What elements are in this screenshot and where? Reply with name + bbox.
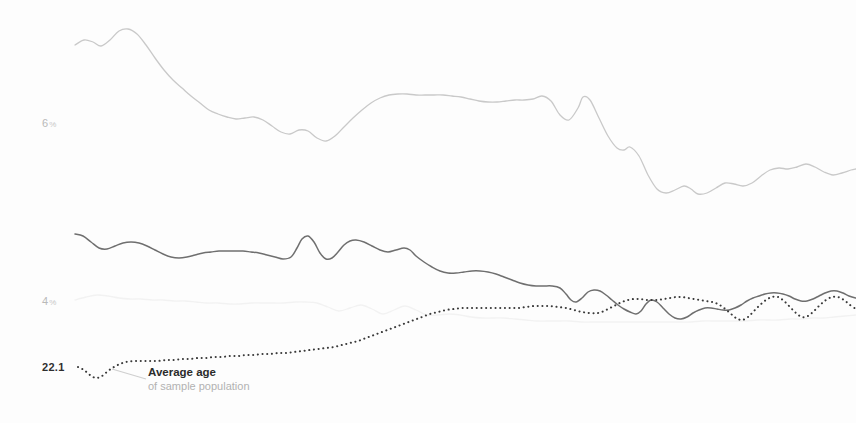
series-group	[75, 29, 856, 378]
annotation-subtitle: of sample population	[148, 379, 348, 393]
y-axis-tick-6-value: 6	[42, 117, 48, 129]
series-line-upper	[75, 29, 856, 194]
y-axis-tick-4: 4%	[42, 295, 57, 307]
annotation-leader-line	[112, 369, 146, 379]
y-axis-tick-6: 6%	[42, 117, 57, 129]
series-line-mid	[75, 234, 856, 319]
chart-container: 6% 4% 22.1 Average age of sample populat…	[0, 0, 856, 423]
y-axis-tick-6-unit: %	[49, 120, 56, 129]
average-age-value-label: 22.1	[42, 361, 65, 373]
y-axis-tick-4-unit: %	[49, 298, 56, 307]
y-axis-tick-4-value: 4	[42, 295, 48, 307]
annotation-title: Average age	[148, 365, 348, 379]
average-age-annotation: Average age of sample population	[148, 365, 348, 393]
series-line-faint	[75, 295, 856, 322]
chart-plot-area	[0, 0, 856, 423]
